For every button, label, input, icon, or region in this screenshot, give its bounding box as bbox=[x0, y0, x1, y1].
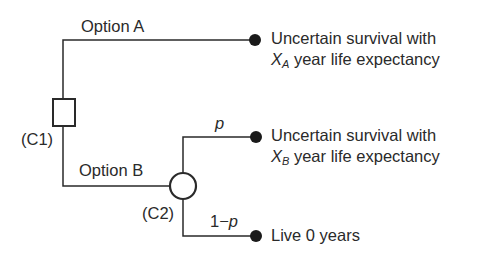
p-branch bbox=[183, 137, 255, 173]
decision-node-square bbox=[53, 99, 75, 126]
outcome-a-line1: Uncertain survival with bbox=[271, 28, 436, 48]
option-a-branch bbox=[63, 40, 255, 99]
option-a-label: Option A bbox=[81, 16, 144, 36]
outcome-c-label: Live 0 years bbox=[271, 225, 360, 245]
outcome-b-var: X bbox=[271, 147, 282, 165]
outcome-a-var: X bbox=[271, 50, 282, 68]
terminal-dot-c bbox=[250, 230, 262, 242]
p-label: p bbox=[215, 113, 224, 133]
one-minus-p-label: 1−p bbox=[210, 211, 238, 231]
terminal-dot-a bbox=[249, 34, 261, 46]
outcome-a-line2: XA year life expectancy bbox=[271, 49, 440, 74]
outcome-b-text: year life expectancy bbox=[289, 147, 439, 165]
chance-node-circle bbox=[170, 173, 196, 199]
c2-label: (C2) bbox=[142, 203, 174, 223]
outcome-a-text: year life expectancy bbox=[289, 50, 439, 68]
outcome-b-line2: XB year life expectancy bbox=[271, 146, 440, 171]
terminal-dot-b bbox=[250, 131, 262, 143]
option-b-label: Option B bbox=[79, 160, 143, 180]
outcome-b-line1: Uncertain survival with bbox=[271, 125, 436, 145]
c1-label: (C1) bbox=[21, 129, 53, 149]
